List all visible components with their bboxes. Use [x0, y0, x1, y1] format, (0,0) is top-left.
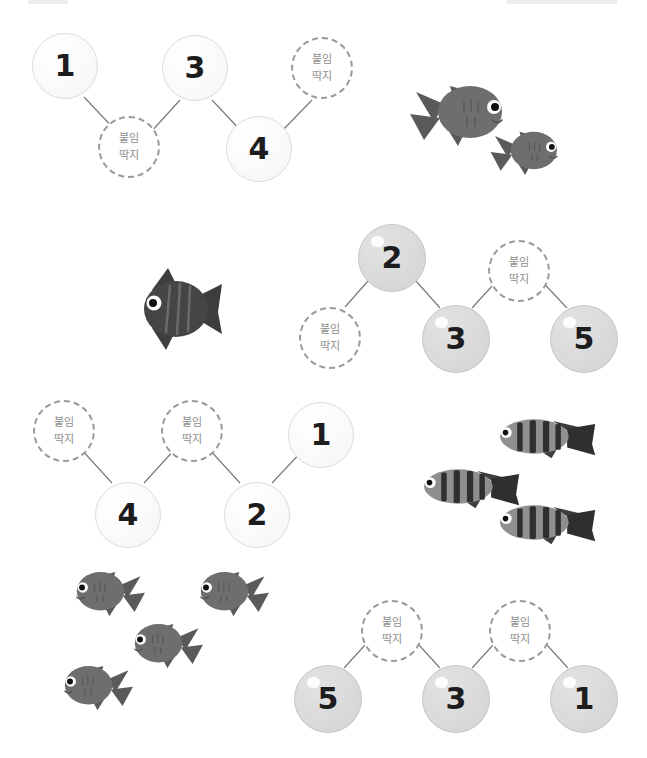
- bubble-number: 2: [247, 500, 268, 530]
- sticker-label-line1: 붙임: [182, 414, 202, 431]
- number-bubble[interactable]: 1: [32, 33, 98, 99]
- highlight-gloss: [563, 317, 576, 328]
- bubble-number: 4: [249, 134, 270, 164]
- number-bubble[interactable]: 3: [422, 665, 490, 733]
- sticker-label-line1: 붙임: [510, 614, 530, 631]
- number-bubble[interactable]: 4: [226, 116, 292, 182]
- highlight-gloss: [239, 127, 252, 138]
- page-edge-mark-left: [28, 0, 68, 4]
- sticker-placeholder[interactable]: 붙임 딱지: [489, 600, 551, 662]
- bubble-number: 3: [446, 324, 467, 354]
- highlight-gloss: [435, 317, 448, 328]
- sticker-label-line2: 딱지: [320, 338, 340, 355]
- sticker-label-line1: 붙임: [509, 254, 529, 271]
- page-edge-mark-right: [507, 0, 617, 4]
- sticker-label-line2: 딱지: [54, 431, 74, 448]
- bubble-number: 4: [118, 500, 139, 530]
- highlight-gloss: [237, 493, 250, 504]
- number-bubble[interactable]: 5: [550, 305, 618, 373]
- fish-goldfish-group: [56, 568, 291, 733]
- number-bubble[interactable]: 3: [162, 35, 228, 101]
- bubble-number: 2: [382, 243, 403, 273]
- sticker-label-line1: 붙임: [54, 414, 74, 431]
- sticker-label-line2: 딱지: [119, 147, 139, 164]
- sticker-placeholder[interactable]: 붙임 딱지: [488, 240, 550, 302]
- sticker-label-line1: 붙임: [119, 130, 139, 147]
- bubble-number: 1: [55, 51, 76, 81]
- number-bubble[interactable]: 3: [422, 305, 490, 373]
- fish-striped-group: [418, 418, 608, 558]
- fish-goldfish-group: [398, 78, 573, 198]
- highlight-gloss: [301, 413, 314, 424]
- bubble-number: 5: [318, 684, 339, 714]
- number-bubble[interactable]: 1: [550, 665, 618, 733]
- highlight-gloss: [307, 677, 320, 688]
- fish-angelfish-group: [122, 262, 232, 358]
- highlight-gloss: [175, 46, 188, 57]
- number-bubble[interactable]: 2: [224, 482, 290, 548]
- sticker-placeholder[interactable]: 붙임 딱지: [299, 307, 361, 369]
- sticker-placeholder[interactable]: 붙임 딱지: [161, 400, 223, 462]
- bubble-number: 1: [311, 420, 332, 450]
- highlight-gloss: [108, 493, 121, 504]
- sticker-placeholder[interactable]: 붙임 딱지: [361, 600, 423, 662]
- worksheet-page: 1 붙임 딱지 3 4 붙임 딱지: [0, 0, 647, 758]
- highlight-gloss: [563, 677, 576, 688]
- sticker-label-line2: 딱지: [509, 271, 529, 288]
- sticker-label-line2: 딱지: [182, 431, 202, 448]
- sticker-placeholder[interactable]: 붙임 딱지: [98, 116, 160, 178]
- bubble-number: 5: [574, 324, 595, 354]
- bubble-number: 3: [446, 684, 467, 714]
- bubble-number: 1: [574, 684, 595, 714]
- highlight-gloss: [435, 677, 448, 688]
- number-bubble[interactable]: 1: [288, 402, 354, 468]
- bubble-number: 3: [185, 53, 206, 83]
- number-bubble[interactable]: 2: [358, 224, 426, 292]
- number-bubble[interactable]: 5: [294, 665, 362, 733]
- sticker-label-line1: 붙임: [320, 321, 340, 338]
- highlight-gloss: [371, 236, 384, 247]
- number-bubble[interactable]: 4: [95, 482, 161, 548]
- sticker-label-line1: 붙임: [312, 51, 332, 68]
- sticker-label-line2: 딱지: [510, 631, 530, 648]
- sticker-label-line1: 붙임: [382, 614, 402, 631]
- sticker-label-line2: 딱지: [382, 631, 402, 648]
- sticker-placeholder[interactable]: 붙임 딱지: [33, 400, 95, 462]
- sticker-label-line2: 딱지: [312, 68, 332, 85]
- sticker-placeholder[interactable]: 붙임 딱지: [291, 37, 353, 99]
- highlight-gloss: [45, 44, 58, 55]
